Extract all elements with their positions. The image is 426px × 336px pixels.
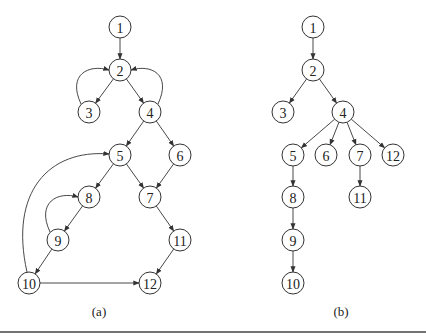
node-a-5: 5 (109, 144, 131, 166)
captions-layer: (a)(b) (92, 304, 349, 319)
svg-text:10: 10 (286, 277, 300, 292)
node-b-8: 8 (282, 186, 304, 208)
node-b-12: 12 (382, 144, 404, 166)
node-b-4: 4 (332, 101, 354, 123)
svg-text:6: 6 (323, 149, 330, 164)
svg-text:4: 4 (147, 106, 154, 121)
svg-text:11: 11 (353, 191, 366, 206)
edge-a-4-to-5 (126, 121, 143, 146)
edge-a-7-to-11 (156, 206, 173, 231)
edge-b-4-to-6 (330, 122, 339, 145)
edge-b-4-to-7 (347, 122, 356, 145)
edge-a-2-to-4 (126, 79, 143, 103)
node-b-9: 9 (282, 229, 304, 251)
edge-a-4-to-2 (131, 68, 163, 104)
node-a-2: 2 (109, 59, 131, 81)
edge-a-3-to-2 (77, 68, 109, 104)
node-a-12: 12 (139, 272, 161, 294)
svg-text:1: 1 (117, 21, 124, 36)
node-a-7: 7 (139, 186, 161, 208)
node-b-2: 2 (302, 59, 324, 81)
svg-text:7: 7 (357, 149, 364, 164)
node-b-7: 7 (349, 144, 371, 166)
svg-text:7: 7 (147, 191, 154, 206)
svg-text:2: 2 (310, 64, 317, 79)
svg-text:12: 12 (143, 277, 157, 292)
node-b-1: 1 (302, 16, 324, 38)
svg-text:4: 4 (340, 106, 347, 121)
svg-text:2: 2 (117, 64, 124, 79)
node-a-6: 6 (169, 144, 191, 166)
nodes-layer: 123456789101112123456712811910 (18, 16, 404, 294)
node-a-10: 10 (18, 272, 40, 294)
node-a-1: 1 (109, 16, 131, 38)
node-a-4: 4 (139, 101, 161, 123)
svg-text:3: 3 (86, 106, 93, 121)
svg-text:5: 5 (117, 149, 124, 164)
edge-a-9-to-8 (46, 195, 78, 232)
edge-a-11-to-12 (156, 249, 173, 274)
edge-b-2-to-3 (289, 79, 306, 103)
edge-b-4-to-12 (351, 119, 384, 148)
svg-text:9: 9 (290, 234, 297, 249)
svg-text:5: 5 (290, 149, 297, 164)
svg-text:6: 6 (177, 149, 184, 164)
svg-text:8: 8 (290, 191, 297, 206)
node-b-3: 3 (272, 101, 294, 123)
edge-a-10-to-5 (23, 154, 109, 272)
edge-a-5-to-8 (96, 164, 114, 188)
node-a-8: 8 (78, 186, 100, 208)
edge-a-5-to-7 (126, 164, 143, 188)
node-a-11: 11 (169, 229, 191, 251)
svg-text:12: 12 (386, 149, 400, 164)
caption-b: (b) (333, 304, 348, 319)
caption-a: (a) (92, 304, 106, 319)
svg-text:9: 9 (55, 234, 62, 249)
edge-a-6-to-7 (156, 164, 173, 188)
edge-a-4-to-6 (156, 121, 173, 146)
edge-b-2-to-4 (319, 79, 336, 103)
node-b-11: 11 (349, 186, 371, 208)
node-b-10: 10 (282, 272, 304, 294)
graph-figure: 123456789101112123456712811910 (a)(b) (0, 0, 426, 336)
node-b-5: 5 (282, 144, 304, 166)
node-a-3: 3 (78, 101, 100, 123)
svg-text:10: 10 (22, 277, 36, 292)
svg-text:3: 3 (280, 106, 287, 121)
edge-a-9-to-10 (35, 249, 52, 274)
svg-text:1: 1 (310, 21, 317, 36)
node-a-9: 9 (47, 229, 69, 251)
edge-b-4-to-5 (301, 119, 334, 148)
node-b-6: 6 (315, 144, 337, 166)
svg-text:11: 11 (173, 234, 186, 249)
svg-text:8: 8 (86, 191, 93, 206)
edge-a-8-to-9 (64, 206, 82, 231)
edge-a-2-to-3 (96, 79, 114, 103)
